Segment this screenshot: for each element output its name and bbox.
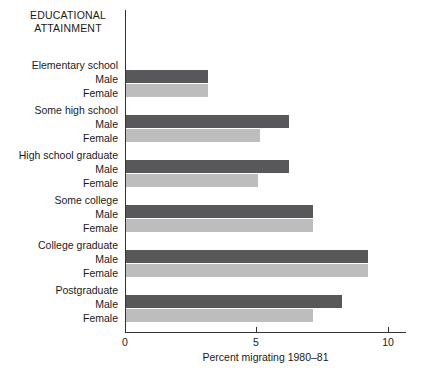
bar-college-graduate-male — [126, 250, 368, 263]
series-label-elementary-school-female: Female — [83, 88, 118, 99]
bar-postgraduate-female — [126, 309, 313, 322]
x-tick-5 — [256, 327, 257, 332]
bar-chart: EDUCATIONAL ATTAINMENT 0 5 10 Percent mi… — [0, 0, 435, 375]
x-tick-10 — [388, 327, 389, 332]
series-label-college-graduate-female: Female — [83, 268, 118, 279]
x-tick-0 — [125, 327, 126, 332]
category-label-high-school-graduate: High school graduate — [19, 150, 118, 161]
bar-high-school-graduate-male — [126, 160, 289, 173]
series-label-college-graduate-male: Male — [95, 254, 118, 265]
series-label-some-high-school-female: Female — [83, 133, 118, 144]
x-axis-label: Percent migrating 1980–81 — [125, 351, 406, 363]
series-label-high-school-graduate-male: Male — [95, 164, 118, 175]
bar-some-high-school-male — [126, 115, 289, 128]
chart-title-line-2: ATTAINMENT — [18, 22, 118, 35]
bar-elementary-school-male — [126, 70, 208, 83]
category-label-college-graduate: College graduate — [38, 240, 118, 251]
bar-some-college-female — [126, 219, 313, 232]
chart-title: EDUCATIONAL ATTAINMENT — [18, 9, 118, 34]
x-axis-line — [125, 332, 406, 333]
series-label-postgraduate-male: Male — [95, 299, 118, 310]
category-label-some-college: Some college — [54, 195, 118, 206]
x-tick-label-10: 10 — [382, 336, 394, 348]
series-label-postgraduate-female: Female — [83, 313, 118, 324]
bar-postgraduate-male — [126, 295, 342, 308]
category-label-elementary-school: Elementary school — [32, 60, 118, 71]
bar-some-college-male — [126, 205, 313, 218]
bar-some-high-school-female — [126, 129, 260, 142]
bar-high-school-graduate-female — [126, 174, 258, 187]
x-tick-label-5: 5 — [253, 336, 259, 348]
series-label-some-high-school-male: Male — [95, 119, 118, 130]
series-label-high-school-graduate-female: Female — [83, 178, 118, 189]
category-label-postgraduate: Postgraduate — [56, 285, 118, 296]
x-tick-label-0: 0 — [122, 336, 128, 348]
bar-college-graduate-female — [126, 264, 368, 277]
series-label-some-college-female: Female — [83, 223, 118, 234]
series-label-elementary-school-male: Male — [95, 74, 118, 85]
category-label-some-high-school: Some high school — [35, 105, 118, 116]
chart-title-line-1: EDUCATIONAL — [18, 9, 118, 22]
series-label-some-college-male: Male — [95, 209, 118, 220]
bar-elementary-school-female — [126, 84, 208, 97]
